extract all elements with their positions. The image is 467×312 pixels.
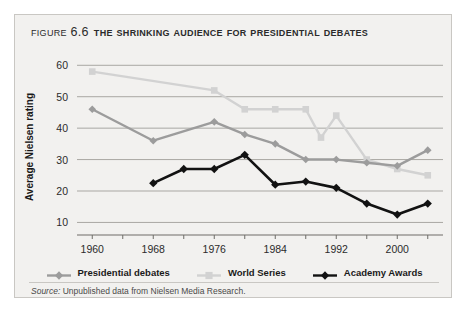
- line-chart: 102030405060Average Nielsen rating196019…: [15, 41, 453, 263]
- y-axis-tick-label: 60: [56, 59, 68, 71]
- data-point: [393, 210, 401, 218]
- legend-swatch-square-icon: [196, 267, 222, 278]
- y-axis-tick-label: 10: [56, 216, 68, 228]
- data-point: [272, 106, 279, 113]
- data-point: [332, 156, 340, 164]
- data-point: [318, 134, 325, 141]
- source-text: Unpublished data from Nielsen Media Rese…: [60, 286, 245, 296]
- legend-item[interactable]: Presidential debates: [46, 267, 170, 278]
- legend-item[interactable]: World Series: [196, 267, 286, 278]
- legend-swatch-diamond-icon: [312, 267, 338, 278]
- source-note: Source: Unpublished data from Nielsen Me…: [31, 286, 246, 296]
- data-point: [321, 271, 329, 279]
- data-point: [205, 271, 212, 278]
- data-point: [211, 87, 218, 94]
- data-point: [424, 199, 432, 207]
- y-axis-title: Average Nielsen rating: [24, 93, 35, 201]
- series-world-series: [89, 68, 431, 178]
- data-point: [210, 118, 218, 126]
- data-point: [302, 177, 310, 185]
- figure-title-text: The Shrinking Audience for Presidential …: [94, 25, 368, 39]
- legend-label: Presidential debates: [78, 267, 170, 278]
- y-axis-tick-label: 30: [56, 154, 68, 166]
- chart-legend: Presidential debatesWorld SeriesAcademy …: [15, 263, 453, 281]
- data-point: [180, 165, 188, 173]
- data-point: [210, 165, 218, 173]
- y-axis-tick-label: 40: [56, 122, 68, 134]
- x-axis-tick-label: 1968: [142, 243, 166, 255]
- chart-plot-area: 102030405060Average Nielsen rating196019…: [15, 41, 453, 263]
- figure-number: Figure 6.6: [31, 25, 89, 39]
- figure-card: Figure 6.6The Shrinking Audience for Pre…: [14, 14, 452, 298]
- source-label: Source:: [31, 286, 60, 296]
- data-point: [54, 271, 62, 279]
- series-academy-awards: [149, 151, 432, 219]
- data-point: [424, 172, 431, 179]
- source-divider: [29, 282, 439, 283]
- y-axis-tick-label: 20: [56, 185, 68, 197]
- data-point: [333, 112, 340, 119]
- y-axis-tick-label: 50: [56, 91, 68, 103]
- page-title: Figure 6.6The Shrinking Audience for Pre…: [31, 25, 368, 39]
- legend-item[interactable]: Academy Awards: [312, 267, 423, 278]
- legend-swatch-diamond-icon: [46, 267, 72, 278]
- x-axis-tick-label: 1976: [203, 243, 227, 255]
- x-axis-tick-label: 1992: [325, 243, 349, 255]
- x-axis-tick-label: 1960: [81, 243, 105, 255]
- series-line: [92, 109, 428, 166]
- legend-label: Academy Awards: [344, 267, 423, 278]
- x-axis-tick-label: 1984: [264, 243, 288, 255]
- data-point: [241, 106, 248, 113]
- data-point: [241, 131, 249, 139]
- data-point: [302, 106, 309, 113]
- legend-label: World Series: [228, 267, 286, 278]
- x-axis-tick-label: 2000: [386, 243, 410, 255]
- data-point: [89, 68, 96, 75]
- data-point: [149, 179, 157, 187]
